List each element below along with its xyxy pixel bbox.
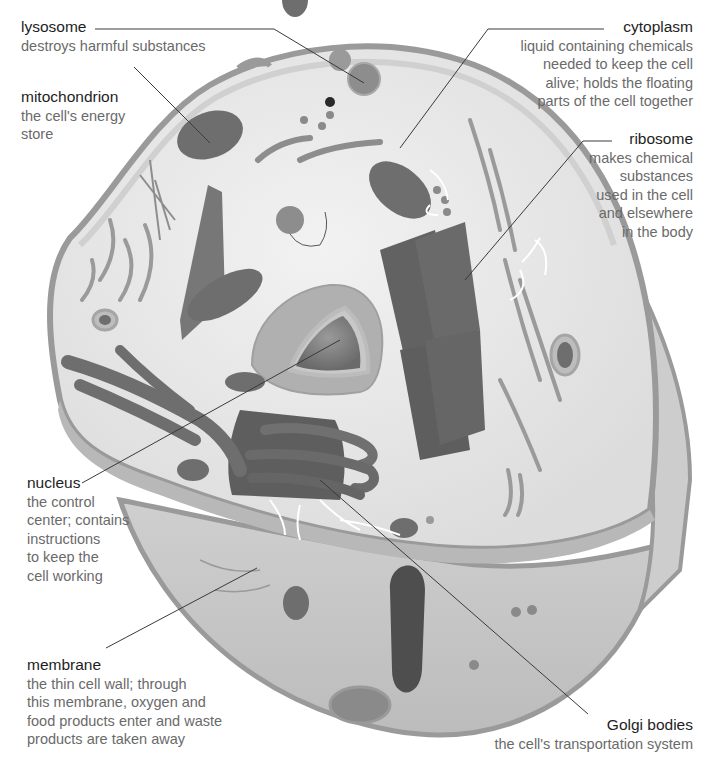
label-term: Golgi bodies	[433, 716, 693, 735]
label-description: destroys harmful substances	[21, 37, 261, 56]
label-cytoplasm: cytoplasm liquid containing chemicals ne…	[453, 18, 693, 111]
label-term: cytoplasm	[453, 18, 693, 37]
label-term: lysosome	[21, 18, 261, 37]
lower-mitochondrion-icon	[282, 0, 308, 17]
label-term: mitochondrion	[21, 88, 161, 107]
lysosome-icon	[348, 63, 380, 95]
label-term: ribosome	[563, 130, 693, 149]
label-golgi-bodies: Golgi bodies the cell's transportation s…	[433, 716, 693, 753]
label-description: the cell's energy store	[21, 107, 161, 144]
label-description: the cell's transportation system	[433, 735, 693, 754]
lower-er-icon	[390, 566, 425, 693]
lysosome-small-icon	[329, 49, 351, 71]
label-lysosome: lysosome destroys harmful substances	[21, 18, 261, 55]
label-description: the control center; contains instruction…	[27, 493, 157, 586]
label-term: nucleus	[27, 474, 157, 493]
label-ribosome: ribosome makes chemical substances used …	[563, 130, 693, 241]
label-membrane: membrane the thin cell wall; through thi…	[27, 656, 267, 749]
label-description: makes chemical substances used in the ce…	[563, 149, 693, 242]
label-nucleus: nucleus the control center; contains ins…	[27, 474, 157, 585]
cell-diagram: lysosome destroys harmful substances mit…	[0, 0, 714, 764]
label-description: the thin cell wall; through this membran…	[27, 675, 267, 749]
label-term: membrane	[27, 656, 267, 675]
label-description: liquid containing chemicals needed to ke…	[453, 37, 693, 111]
label-mitochondrion: mitochondrion the cell's energy store	[21, 88, 161, 144]
